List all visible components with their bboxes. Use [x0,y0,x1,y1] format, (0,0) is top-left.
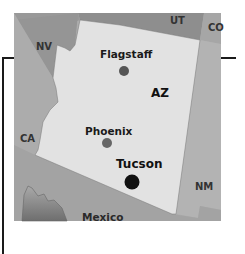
frame-line-left [3,58,14,254]
state-label-az: AZ [151,86,169,100]
state-label-ca: CA [20,133,35,144]
state-label-co: CO [208,22,224,33]
state-label-mexico: Mexico [82,211,123,223]
city-marker-phoenix[interactable] [102,138,112,148]
state-label-nv: NV [36,41,52,52]
city-label-tucson: Tucson [116,157,162,171]
state-label-ut: UT [170,15,185,26]
city-marker-flagstaff[interactable] [119,66,129,76]
state-label-nm: NM [195,181,213,192]
city-marker-tucson[interactable] [125,175,140,190]
city-label-phoenix: Phoenix [85,125,133,137]
city-label-flagstaff: Flagstaff [100,48,153,60]
arizona-map: NV UT CO AZ CA NM Mexico Flagstaff Phoen… [0,0,245,254]
